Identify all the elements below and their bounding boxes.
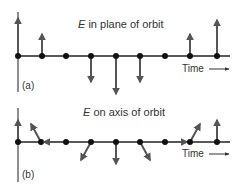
time-point-dot (88, 53, 94, 59)
time-point-dot (187, 139, 193, 145)
time-point-dot (162, 53, 168, 59)
time-point-dot (39, 53, 45, 59)
time-point-dot (187, 53, 193, 59)
time-point-dot (214, 53, 220, 59)
time-point-dot (15, 53, 21, 59)
diagram-canvas: E in plane of orbit (a) Time E on axis o… (0, 0, 247, 194)
time-point-dot (113, 139, 119, 145)
time-point-dot (137, 139, 143, 145)
time-point-dot (63, 139, 69, 145)
panel-label: (a) (22, 80, 34, 91)
time-point-dot (38, 139, 44, 145)
time-label: Time (182, 63, 204, 74)
time-point-dot (214, 139, 220, 145)
panel-a: E in plane of orbit (a) Time (15, 12, 230, 94)
time-label: Time (182, 148, 204, 159)
field-vector-arrow-icon (31, 124, 41, 142)
time-point-dot (88, 139, 94, 145)
time-point-dot (162, 139, 168, 145)
time-point-dot (63, 53, 69, 59)
panel-title: E in plane of orbit (78, 18, 164, 30)
time-point-dot (113, 53, 119, 59)
field-vector-arrow-icon (190, 124, 200, 142)
panel-label: (b) (22, 169, 34, 180)
panel-title: E on axis of orbit (83, 106, 165, 118)
field-vector-arrow-icon (81, 142, 91, 160)
panel-b: E on axis of orbit (b) Time (15, 106, 230, 182)
time-point-dot (15, 139, 21, 145)
field-vector-arrow-icon (140, 142, 150, 160)
time-point-dot (137, 53, 143, 59)
